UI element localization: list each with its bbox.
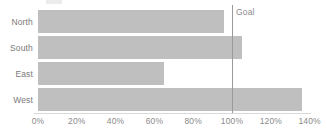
x-tick-label-20: 20% — [68, 116, 85, 126]
category-label-east: East — [0, 69, 33, 79]
plot-area — [38, 9, 310, 113]
x-tick-label-0: 0% — [32, 116, 45, 126]
bar-north[interactable] — [38, 10, 224, 33]
bar-chart: North South East West Goal 0%20%40%60%80… — [0, 0, 327, 134]
category-label-west: West — [0, 95, 33, 105]
category-label-south: South — [0, 43, 33, 53]
x-tick-label-40: 40% — [107, 116, 124, 126]
x-axis-line — [34, 113, 311, 114]
goal-label: Goal — [236, 7, 255, 17]
x-tick-label-80: 80% — [184, 116, 201, 126]
x-tick-label-100: 100% — [221, 116, 243, 126]
chart-title-stub — [46, 0, 62, 4]
bar-west[interactable] — [38, 88, 302, 111]
goal-reference-line — [232, 5, 233, 113]
bar-east[interactable] — [38, 62, 164, 85]
x-tick-label-120: 120% — [260, 116, 282, 126]
category-label-north: North — [0, 17, 33, 27]
bar-south[interactable] — [38, 36, 242, 59]
x-tick-label-60: 60% — [146, 116, 163, 126]
x-tick-label-140: 140% — [298, 116, 320, 126]
